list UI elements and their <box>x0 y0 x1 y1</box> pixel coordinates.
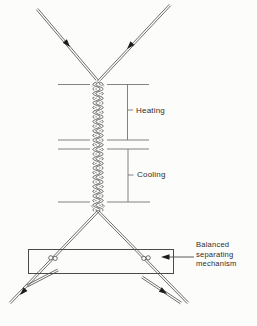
process-diagram: Heating Cooling Balanced separating mech… <box>0 0 257 326</box>
diagram-line-art <box>0 0 257 326</box>
heating-extent-bracket <box>128 85 134 141</box>
separating-mechanism-label-line2: separating <box>196 250 237 260</box>
separating-mechanism-label-line1: Balanced <box>196 240 237 250</box>
separating-mechanism-box <box>29 250 174 274</box>
cooling-label: Cooling <box>137 170 166 179</box>
cooling-extent-bracket <box>128 149 134 202</box>
twisted-strand <box>93 82 103 211</box>
separating-mechanism-label: Balanced separating mechanism <box>196 240 237 269</box>
heating-label: Heating <box>136 106 165 115</box>
label-leader-arrow-icon <box>161 254 194 259</box>
zone-boundary-lines <box>58 85 150 203</box>
yarn-guide-right-icon <box>142 256 151 261</box>
separating-mechanism-label-line3: mechanism <box>196 259 237 269</box>
